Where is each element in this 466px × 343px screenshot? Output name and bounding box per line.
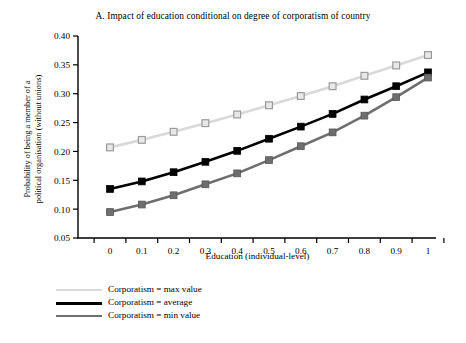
y-tick-label: 0.15 [54,176,70,186]
data-point-marker [297,143,304,150]
data-point-marker [425,74,432,81]
chart-plot-area: 0.050.100.150.200.250.300.350.40 00.10.2… [0,0,466,343]
y-tick-label: 0.10 [54,205,70,215]
y-tick-label: 0.40 [54,31,70,41]
data-series-group [107,52,432,216]
data-point-marker [234,147,241,154]
legend-label: Corporatism = max value [108,284,202,294]
data-point-marker [234,111,241,118]
data-point-marker [361,72,368,79]
y-tick-label: 0.30 [54,89,70,99]
legend-label: Corporatism = average [108,297,192,307]
data-point-marker [107,186,114,193]
data-point-marker [138,178,145,185]
data-point-marker [234,170,241,177]
series-line [110,72,428,189]
figure-container: A. Impact of education conditional on de… [0,0,466,343]
data-point-marker [266,157,273,164]
data-point-marker [107,144,114,151]
data-point-marker [297,123,304,130]
y-tick-label: 0.20 [54,147,70,157]
series-line [110,78,428,212]
data-point-marker [393,62,400,69]
y-tick-label: 0.25 [54,118,70,128]
data-point-marker [107,209,114,216]
x-axis-label: Education (individual-level) [75,251,440,261]
legend-label: Corporatism = min value [108,310,200,320]
data-point-marker [425,52,432,59]
data-point-marker [329,129,336,136]
data-point-marker [202,158,209,165]
legend-swatch [56,315,102,317]
data-point-marker [297,93,304,100]
data-point-marker [361,96,368,103]
data-series [107,74,432,215]
data-point-marker [361,112,368,119]
data-point-marker [266,135,273,142]
y-tick-label: 0.05 [54,233,70,243]
data-point-marker [329,111,336,118]
data-point-marker [329,83,336,90]
y-axis-ticks: 0.050.100.150.200.250.300.350.40 [54,31,78,243]
legend-swatch [56,289,102,291]
data-point-marker [138,201,145,208]
legend-swatch [56,302,102,305]
data-point-marker [393,94,400,101]
data-point-marker [170,192,177,199]
data-point-marker [170,169,177,176]
data-point-marker [138,136,145,143]
data-point-marker [202,181,209,188]
y-tick-label: 0.35 [54,60,70,70]
data-point-marker [393,83,400,90]
data-point-marker [202,120,209,127]
data-point-marker [266,102,273,109]
data-series [107,69,432,192]
series-line [110,55,428,147]
data-point-marker [170,128,177,135]
